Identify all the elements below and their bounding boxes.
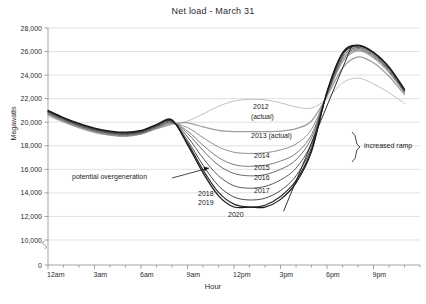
x-tick-label: 6am	[140, 271, 180, 278]
y-tick-label: 28,000	[0, 25, 42, 32]
x-tick-label: 6pm	[326, 271, 366, 278]
series-label-2013: 2013 (actual)	[251, 132, 292, 141]
series-label-2014: 2014	[254, 152, 270, 161]
series-line-2017	[48, 47, 405, 188]
y-tick-label: 10,000	[0, 237, 42, 244]
series-label-2018: 2018	[198, 190, 214, 199]
chart-root: Net load - March 31 Megawatts Hour 28,00…	[0, 0, 426, 304]
ramp-indicator	[284, 46, 352, 211]
series-line-2012	[48, 78, 405, 136]
x-axis-title: Hour	[0, 282, 426, 291]
series-line-2015	[48, 50, 405, 167]
net-load-line-chart	[0, 0, 426, 304]
x-tick-label: 9am	[187, 271, 227, 278]
x-tick-label: 9pm	[373, 271, 413, 278]
y-tick-label: 26,000	[0, 48, 42, 55]
increased-ramp-line	[284, 46, 352, 211]
series-label-2012: 2012	[253, 103, 269, 112]
y-tick-label: 24,000	[0, 72, 42, 79]
y-tick-label: 22,000	[0, 95, 42, 102]
series-label-2017: 2017	[254, 187, 270, 196]
y-tick-label: 12,000	[0, 213, 42, 220]
y-axis-break-icon	[43, 241, 47, 249]
y-tick-label: 18,000	[0, 142, 42, 149]
annotation-increased-ramp: increased ramp	[364, 142, 412, 151]
x-tick-label: 3am	[94, 271, 134, 278]
series-line-2019	[48, 46, 405, 207]
x-tick-marks	[48, 265, 420, 269]
y-tick-label: 16,000	[0, 166, 42, 173]
data-series-group	[48, 45, 405, 208]
x-tick-label: 12pm	[233, 271, 273, 278]
series-label-2015: 2015	[254, 164, 270, 173]
series-line-2020	[48, 45, 405, 208]
series-line-2016	[48, 49, 405, 176]
series-line-2013	[48, 57, 405, 137]
series-line-2014	[48, 51, 405, 154]
annotation-overgeneration: potential overgeneration	[72, 173, 147, 182]
series-label-2016: 2016	[254, 174, 270, 183]
x-tick-label: 3pm	[280, 271, 320, 278]
y-tick-label: 0	[0, 262, 42, 269]
y-tick-marks	[45, 28, 49, 265]
series-label-2020: 2020	[228, 211, 244, 220]
y-tick-label: 14,000	[0, 189, 42, 196]
y-tick-label: 20,000	[0, 119, 42, 126]
x-tick-label: 12am	[47, 271, 87, 278]
series-label-2019: 2019	[198, 199, 214, 208]
series-label-2012-actual: (actual)	[251, 113, 274, 122]
chart-title: Net load - March 31	[0, 6, 426, 16]
